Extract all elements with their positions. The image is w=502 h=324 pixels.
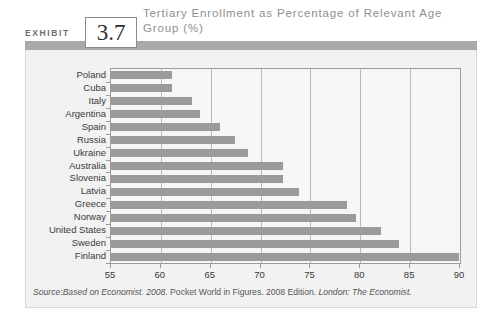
category-label: Russia xyxy=(30,134,106,147)
bar-row xyxy=(110,198,347,211)
bar xyxy=(110,84,172,92)
source-italic-two: London: The Economist. xyxy=(316,287,412,297)
bar-series xyxy=(110,68,461,264)
category-label: United States xyxy=(30,224,106,237)
bar-row xyxy=(110,108,200,121)
bar-row xyxy=(110,237,399,250)
exhibit-number: 3.7 xyxy=(97,21,126,44)
bar xyxy=(110,110,200,118)
category-label: Argentina xyxy=(30,108,106,121)
category-label: Slovenia xyxy=(30,172,106,185)
x-axis-tick xyxy=(160,264,161,268)
category-label: Ukraine xyxy=(30,147,106,160)
category-label: Latvia xyxy=(30,185,106,198)
bar xyxy=(110,188,299,196)
x-axis-labels: 5560657075808590 xyxy=(110,269,461,283)
source-plain-one: Pocket World in Figures. 2008 Edition. xyxy=(168,287,316,297)
x-axis-tick xyxy=(459,264,460,268)
exhibit-number-box: 3.7 xyxy=(85,17,137,48)
category-label: Finland xyxy=(30,250,106,263)
category-label: Norway xyxy=(30,211,106,224)
source-note: Source:Based on Economist. 2008. Pocket … xyxy=(33,287,473,297)
bar-row xyxy=(110,250,459,263)
category-label: Italy xyxy=(30,95,106,108)
bar xyxy=(110,123,220,131)
bar-row xyxy=(110,172,283,185)
bar xyxy=(110,175,283,183)
x-axis-tick xyxy=(409,264,410,268)
bar xyxy=(110,240,399,248)
category-label: Spain xyxy=(30,121,106,134)
x-axis-label: 80 xyxy=(354,269,365,280)
category-label: Sweden xyxy=(30,237,106,250)
bar xyxy=(110,149,248,157)
x-axis-label: 60 xyxy=(155,269,166,280)
category-axis: PolandCubaItalyArgentinaSpainRussiaUkrai… xyxy=(30,68,106,264)
bar xyxy=(110,136,235,144)
bar-row xyxy=(110,121,220,134)
exhibit-label: EXHIBIT xyxy=(25,28,70,38)
bar xyxy=(110,227,381,235)
x-axis-tick xyxy=(260,264,261,268)
x-axis-label: 75 xyxy=(304,269,315,280)
category-label: Cuba xyxy=(30,82,106,95)
bar-row xyxy=(110,224,381,237)
category-label: Australia xyxy=(30,160,106,173)
bar-row xyxy=(110,185,299,198)
x-axis-label: 85 xyxy=(404,269,415,280)
bar xyxy=(110,71,172,79)
category-label: Poland xyxy=(30,69,106,82)
bar-row xyxy=(110,211,356,224)
bar-row xyxy=(110,69,172,82)
chart-title: Tertiary Enrollment as Percentage of Rel… xyxy=(143,6,473,36)
bar xyxy=(110,214,356,222)
bar-row xyxy=(110,160,283,173)
bar-row xyxy=(110,134,235,147)
exhibit-figure: EXHIBIT 3.7 Tertiary Enrollment as Perce… xyxy=(0,0,502,324)
x-axis-label: 90 xyxy=(454,269,465,280)
bar xyxy=(110,162,283,170)
category-label: Greece xyxy=(30,198,106,211)
x-axis-label: 65 xyxy=(204,269,215,280)
bar xyxy=(110,97,192,105)
x-axis-label: 70 xyxy=(254,269,265,280)
x-axis-tick xyxy=(110,264,111,268)
x-axis-label: 55 xyxy=(105,269,116,280)
x-axis-tick xyxy=(210,264,211,268)
bar xyxy=(110,253,459,261)
bar-row xyxy=(110,147,248,160)
x-axis-tick xyxy=(309,264,310,268)
source-italic-one: Based on Economist. 2008. xyxy=(63,287,168,297)
bar xyxy=(110,201,347,209)
x-axis-tick xyxy=(359,264,360,268)
bar-row xyxy=(110,95,192,108)
bar-row xyxy=(110,82,172,95)
source-prefix: Source: xyxy=(33,287,63,297)
